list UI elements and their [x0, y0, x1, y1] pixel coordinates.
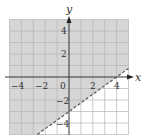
x-tick-label: 0 — [60, 81, 66, 91]
x-axis-label: x — [135, 71, 142, 84]
inequality-graph: y x −4 −2 0 2 4 4 2 −2 −4 — [0, 0, 146, 140]
y-tick-label: 4 — [61, 26, 67, 36]
y-axis-label: y — [65, 3, 73, 16]
x-tick-label: −4 — [11, 81, 25, 91]
x-tick-label: −2 — [35, 81, 48, 91]
x-tick-label: 4 — [114, 81, 120, 91]
x-tick-label: 2 — [90, 81, 96, 91]
x-axis-arrow-icon — [127, 75, 134, 80]
y-tick-label: 2 — [61, 49, 67, 59]
y-tick-label: −2 — [56, 96, 69, 106]
y-tick-label: −4 — [56, 119, 70, 129]
